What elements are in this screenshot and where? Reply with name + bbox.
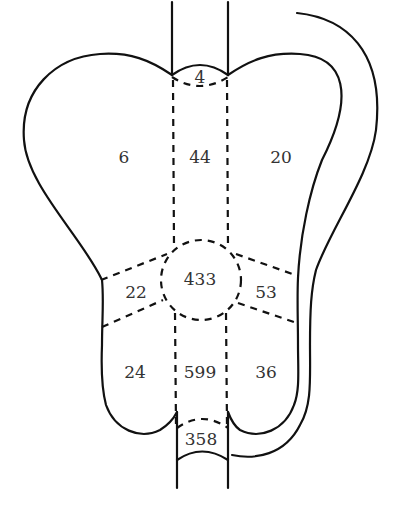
region-label-lower-middle: 599 <box>184 364 216 381</box>
right-lobe-outline <box>228 54 341 434</box>
right-lower-divider <box>238 303 297 323</box>
region-label-upper-left: 6 <box>119 149 130 166</box>
left-upper-divider <box>101 254 167 280</box>
left-lower-divider <box>102 300 163 327</box>
region-label-middle-left: 22 <box>125 284 147 301</box>
lower-right-divider <box>226 313 227 426</box>
region-label-bottom-neck: 358 <box>185 431 217 448</box>
bottom-neck-dashed-boundary <box>177 419 228 428</box>
region-label-upper-middle: 44 <box>189 149 211 166</box>
upper-left-divider <box>173 80 174 246</box>
region-label-upper-right: 20 <box>270 149 292 166</box>
lower-left-divider <box>175 313 176 426</box>
region-label-top-neck: 4 <box>195 69 206 86</box>
left-lobe-outline <box>24 54 177 434</box>
diagram-canvas: 4 6 44 20 433 22 53 24 599 36 358 <box>0 0 415 516</box>
region-label-center: 433 <box>184 271 216 288</box>
region-label-lower-left: 24 <box>124 364 146 381</box>
bottom-neck-arc <box>177 452 228 461</box>
region-label-lower-right: 36 <box>255 364 277 381</box>
upper-right-divider <box>227 80 228 248</box>
right-upper-divider <box>236 254 298 276</box>
region-label-middle-right: 53 <box>255 284 277 301</box>
outer-wall-line <box>232 13 377 457</box>
